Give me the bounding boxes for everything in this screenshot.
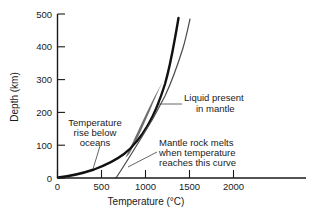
x-tick-label-2000: 2000: [223, 181, 244, 192]
annotation-liquid-present-line2: in mantle: [196, 103, 235, 114]
y-tick-label-500: 500: [36, 9, 52, 20]
x-tick-label-1500: 1500: [179, 181, 200, 192]
x-axis-title: Temperature (°C): [108, 196, 185, 207]
y-tick-label-200: 200: [36, 107, 52, 118]
annotation-mantle-melts-line3: reaches this curve: [159, 157, 236, 168]
annotation-liquid-present-line1: Liquid present: [184, 92, 244, 103]
x-axis-ticks: [58, 170, 234, 178]
y-axis-title: Depth (km): [9, 72, 20, 121]
y-tick-label-300: 300: [36, 74, 52, 85]
annotation-temperature-rise-line3: oceans: [80, 137, 111, 148]
temperature-rise-leader: [93, 146, 100, 169]
temperature-depth-chart: 0 100 200 300 400 500 0 500 1000 1500 20…: [0, 0, 313, 222]
x-tick-label-500: 500: [94, 181, 110, 192]
x-tick-label-1000: 1000: [135, 181, 156, 192]
y-tick-label-100: 100: [36, 140, 52, 151]
y-tick-label-0: 0: [47, 173, 52, 184]
x-tick-label-0: 0: [55, 181, 60, 192]
y-tick-label-400: 400: [36, 41, 52, 52]
chart-container: 0 100 200 300 400 500 0 500 1000 1500 20…: [0, 0, 313, 222]
y-axis-ticks: [58, 14, 66, 178]
mantle-melts-leader: [128, 152, 157, 167]
